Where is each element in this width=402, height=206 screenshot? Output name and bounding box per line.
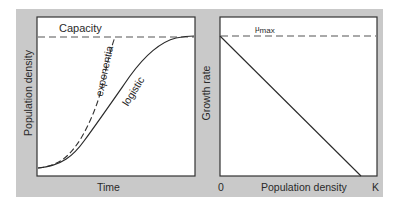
x-tick-zero: 0	[218, 181, 224, 193]
mu-max-label: μmax	[255, 21, 275, 35]
x-tick-k: K	[372, 181, 379, 193]
left-y-axis-label: Population density	[22, 43, 34, 143]
left-x-axis-label: Time	[97, 181, 120, 193]
mu-subscript: max	[260, 26, 275, 35]
capacity-label: Capacity	[59, 22, 102, 34]
right-plot-area	[220, 17, 377, 176]
right-x-axis-label: Population density	[261, 181, 347, 193]
right-y-axis-label: Growth rate	[200, 58, 212, 128]
